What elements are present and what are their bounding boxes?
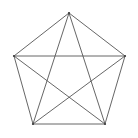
graph-edge-AD — [33, 13, 69, 124]
figure-canvas — [0, 0, 138, 138]
vertex-layer — [13, 12, 126, 125]
graph-edge-EA — [14, 13, 69, 56]
graph-vertex-bottom-left — [32, 123, 34, 125]
graph-edge-BC — [105, 56, 125, 124]
graph-vertex-apex — [68, 12, 70, 14]
graph-vertex-right — [124, 55, 126, 57]
graph-vertex-left — [13, 55, 15, 57]
pentagon-complete-graph — [0, 0, 138, 138]
edge-layer — [14, 13, 125, 124]
graph-vertex-bottom-right — [104, 123, 106, 125]
graph-edge-AC — [69, 13, 105, 124]
graph-edge-AB — [69, 13, 125, 56]
graph-edge-CE — [14, 56, 105, 124]
graph-edge-DE — [14, 56, 33, 124]
graph-edge-BD — [33, 56, 125, 124]
